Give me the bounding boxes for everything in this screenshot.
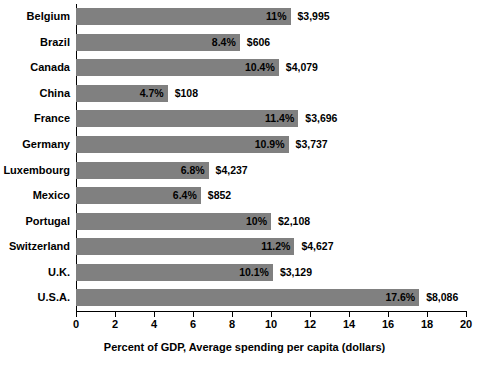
category-label: Germany bbox=[0, 132, 70, 158]
category-label: Luxembourg bbox=[0, 158, 70, 184]
category-label: U.K. bbox=[0, 260, 70, 286]
x-tick-label: 14 bbox=[343, 318, 355, 330]
chart-row: 11.2%$4,627 bbox=[76, 234, 466, 260]
plot-area: 11%$3,9958.4%$60610.4%$4,0794.7%$10811.4… bbox=[76, 4, 466, 311]
x-tick-mark bbox=[427, 312, 428, 317]
bar-percent-label: 6.8% bbox=[76, 162, 209, 179]
bar-percent-label: 10.4% bbox=[76, 59, 279, 76]
bar-spending-label: $606 bbox=[240, 34, 270, 51]
bar-percent-label: 6.4% bbox=[76, 187, 201, 204]
bar-percent-label: 10.9% bbox=[76, 136, 289, 153]
x-tick-mark bbox=[271, 312, 272, 317]
x-tick-label: 10 bbox=[265, 318, 277, 330]
chart-row: 8.4%$606 bbox=[76, 30, 466, 56]
bar-spending-label: $852 bbox=[201, 187, 231, 204]
x-tick-label: 6 bbox=[190, 318, 196, 330]
bar-spending-label: $3,696 bbox=[298, 110, 337, 127]
x-tick-label: 20 bbox=[460, 318, 472, 330]
x-tick-label: 18 bbox=[421, 318, 433, 330]
x-tick-label: 2 bbox=[112, 318, 118, 330]
x-tick-mark bbox=[310, 312, 311, 317]
x-tick-label: 8 bbox=[229, 318, 235, 330]
chart-row: 10.4%$4,079 bbox=[76, 55, 466, 81]
bar-percent-label: 8.4% bbox=[76, 34, 240, 51]
bar-spending-label: $3,129 bbox=[273, 264, 312, 281]
x-tick-mark bbox=[466, 312, 467, 317]
x-axis-ticks: 02468101214161820 bbox=[76, 312, 467, 332]
x-tick-mark bbox=[76, 312, 77, 317]
x-tick-label: 4 bbox=[151, 318, 157, 330]
bar-spending-label: $8,086 bbox=[419, 289, 458, 306]
category-label: U.S.A. bbox=[0, 285, 70, 311]
chart-row: 11.4%$3,696 bbox=[76, 106, 466, 132]
bar-spending-label: $4,237 bbox=[209, 162, 248, 179]
category-label: Canada bbox=[0, 55, 70, 81]
bar-chart: BelgiumBrazilCanadaChinaFranceGermanyLux… bbox=[0, 0, 489, 366]
x-tick-label: 12 bbox=[304, 318, 316, 330]
bar-percent-label: 11.4% bbox=[76, 110, 298, 127]
x-tick-label: 16 bbox=[382, 318, 394, 330]
chart-row: 10%$2,108 bbox=[76, 209, 466, 235]
chart-row: 17.6%$8,086 bbox=[76, 285, 466, 311]
bar-percent-label: 10% bbox=[76, 213, 271, 230]
category-label: Portugal bbox=[0, 209, 70, 235]
x-tick-mark bbox=[154, 312, 155, 317]
bar-spending-label: $108 bbox=[168, 85, 198, 102]
category-label: China bbox=[0, 81, 70, 107]
category-label: Switzerland bbox=[0, 234, 70, 260]
chart-row: 6.4%$852 bbox=[76, 183, 466, 209]
bar-spending-label: $4,627 bbox=[294, 238, 333, 255]
chart-row: 4.7%$108 bbox=[76, 81, 466, 107]
bar-spending-label: $3,737 bbox=[289, 136, 328, 153]
bar-percent-label: 4.7% bbox=[76, 85, 168, 102]
bar-spending-label: $2,108 bbox=[271, 213, 310, 230]
x-tick-mark bbox=[115, 312, 116, 317]
category-label: Belgium bbox=[0, 4, 70, 30]
category-label: Brazil bbox=[0, 30, 70, 56]
chart-row: 6.8%$4,237 bbox=[76, 158, 466, 184]
x-axis-title: Percent of GDP, Average spending per cap… bbox=[0, 341, 489, 353]
chart-row: 10.1%$3,129 bbox=[76, 260, 466, 286]
category-label: Mexico bbox=[0, 183, 70, 209]
x-tick-mark bbox=[388, 312, 389, 317]
x-tick-label: 0 bbox=[73, 318, 79, 330]
x-tick-mark bbox=[193, 312, 194, 317]
category-axis-labels: BelgiumBrazilCanadaChinaFranceGermanyLux… bbox=[0, 4, 70, 311]
chart-row: 11%$3,995 bbox=[76, 4, 466, 30]
x-tick-mark bbox=[232, 312, 233, 317]
bar-percent-label: 11.2% bbox=[76, 238, 294, 255]
chart-row: 10.9%$3,737 bbox=[76, 132, 466, 158]
bar-percent-label: 11% bbox=[76, 8, 291, 25]
bar-percent-label: 17.6% bbox=[76, 289, 419, 306]
category-label: France bbox=[0, 106, 70, 132]
bar-spending-label: $3,995 bbox=[291, 8, 330, 25]
x-tick-mark bbox=[349, 312, 350, 317]
bar-spending-label: $4,079 bbox=[279, 59, 318, 76]
bar-percent-label: 10.1% bbox=[76, 264, 273, 281]
